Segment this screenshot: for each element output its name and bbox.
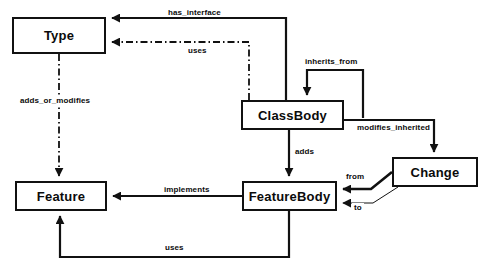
- node-type-label: Type: [44, 28, 74, 43]
- node-featurebody[interactable]: FeatureBody: [242, 181, 337, 211]
- node-featurebody-label: FeatureBody: [249, 189, 331, 204]
- edge-has-interface: [112, 18, 286, 100]
- edge-label-has-interface: has_interface: [166, 8, 223, 17]
- node-feature-label: Feature: [37, 189, 85, 204]
- node-change-label: Change: [411, 165, 460, 180]
- edge-label-adds: adds: [293, 147, 316, 156]
- node-feature[interactable]: Feature: [15, 181, 107, 211]
- edge-label-to: to: [352, 203, 364, 212]
- edge-label-modifies-inherited: modifies_inherited: [355, 123, 432, 132]
- edge-label-uses-type: uses: [186, 46, 209, 55]
- edge-label-inherits-from: inherits_from: [303, 57, 359, 66]
- diagram-canvas: Type ClassBody Feature FeatureBody Chang…: [0, 0, 490, 274]
- node-classbody-label: ClassBody: [258, 108, 327, 123]
- edge-label-implements: implements: [162, 185, 211, 194]
- node-classbody[interactable]: ClassBody: [241, 100, 344, 130]
- node-change[interactable]: Change: [392, 157, 478, 187]
- edge-uses-type: [112, 42, 249, 100]
- edge-label-uses-feature: uses: [163, 243, 186, 252]
- node-type[interactable]: Type: [12, 17, 106, 54]
- edge-label-adds-or-modifies: adds_or_modifies: [18, 96, 92, 105]
- edge-label-from: from: [344, 172, 366, 181]
